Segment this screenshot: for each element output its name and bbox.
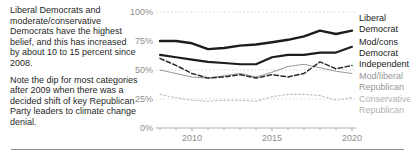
x-tick-label-2020: 2020 — [342, 133, 362, 143]
y-tick-label-50: 50% — [135, 65, 153, 75]
x-tick-label-2015: 2015 — [262, 133, 282, 143]
series-line-mod-cons-democrat — [160, 47, 352, 64]
series-line-conservative-republican — [160, 94, 352, 101]
footer-divider — [11, 149, 404, 150]
y-tick-label-25: 25% — [135, 94, 153, 104]
legend-label-mod-cons-democrat: Mod/cons Democrat — [359, 37, 409, 58]
y-tick-label-100: 100% — [130, 7, 153, 17]
legend-label-conservative-republican: Conservative Republican — [359, 94, 409, 115]
x-tick-label-2010: 2010 — [182, 133, 202, 143]
legend-label-liberal-democrat: Liberal Democrat — [359, 13, 409, 34]
series-line-liberal-democrat — [160, 31, 352, 49]
legend-label-mod-liberal-republican: Mod/liberal Republican — [359, 71, 409, 92]
y-tick-label-75: 75% — [135, 36, 153, 46]
line-chart: 100%75%50%25%0%201020152020 — [0, 0, 410, 155]
legend-label-independent: Independent — [359, 59, 409, 70]
y-tick-label-0: 0% — [140, 123, 153, 133]
climate-belief-infographic: Liberal Democrats and moderate/conservat… — [0, 0, 410, 155]
